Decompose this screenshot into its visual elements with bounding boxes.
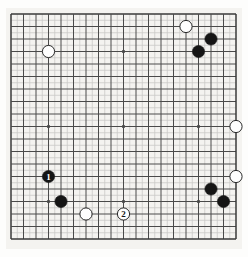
star-point — [122, 50, 125, 53]
go-board-figure: 12 — [0, 0, 248, 257]
stone-b-bottom-right-up[interactable] — [205, 183, 217, 195]
stone-b-top-right-outer[interactable] — [205, 33, 217, 45]
star-point — [122, 125, 125, 128]
white-stone[interactable] — [230, 120, 242, 132]
stone-b-bottom-left[interactable] — [55, 195, 67, 207]
go-board-svg[interactable]: 12 — [0, 0, 248, 257]
star-point — [197, 200, 200, 203]
black-stone[interactable] — [55, 195, 67, 207]
stone-w-right-lower[interactable] — [230, 170, 242, 182]
stone-w-top-right[interactable] — [180, 20, 192, 32]
star-point — [122, 200, 125, 203]
white-stone[interactable] — [42, 45, 54, 57]
stone-b-bottom-right-low[interactable] — [217, 195, 229, 207]
star-point — [197, 125, 200, 128]
star-point — [47, 200, 50, 203]
stone-w-move-2[interactable]: 2 — [117, 208, 129, 220]
stone-b-top-right-inner[interactable] — [192, 45, 204, 57]
stone-b-move-1[interactable]: 1 — [42, 170, 54, 182]
white-stone[interactable] — [180, 20, 192, 32]
black-stone[interactable] — [192, 45, 204, 57]
black-stone[interactable] — [205, 33, 217, 45]
stone-move-number: 1 — [46, 172, 51, 182]
stone-w-bottom-left[interactable] — [80, 208, 92, 220]
white-stone[interactable] — [230, 170, 242, 182]
go-board-grid[interactable]: 12 — [0, 0, 248, 257]
stone-w-top-left-star[interactable] — [42, 45, 54, 57]
stone-w-right-upper[interactable] — [230, 120, 242, 132]
white-stone[interactable] — [80, 208, 92, 220]
stone-move-number: 2 — [121, 209, 126, 219]
black-stone[interactable] — [205, 183, 217, 195]
star-point — [47, 125, 50, 128]
black-stone[interactable] — [217, 195, 229, 207]
